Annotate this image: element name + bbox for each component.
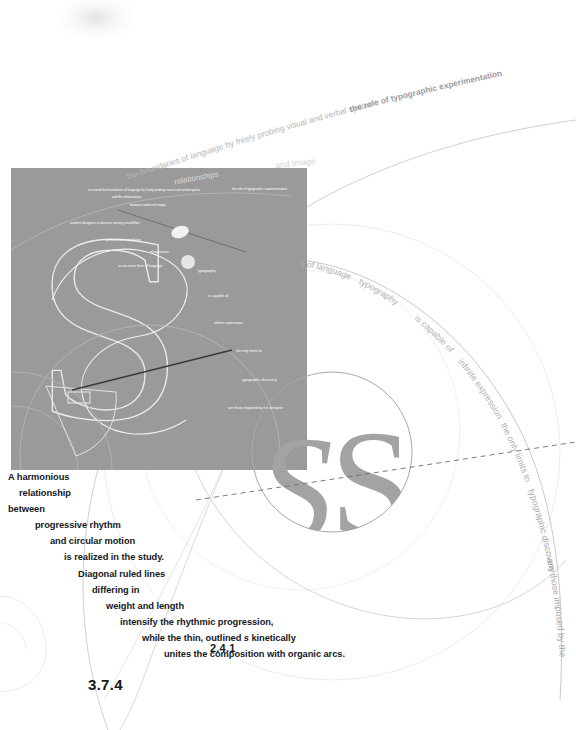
caption-line-9: intensify the rhythmic progression, (8, 614, 438, 630)
caption-line-4: and circular motion (8, 533, 438, 549)
arc-right-text-3: infinite expression (456, 357, 505, 421)
caption-line-7: differing in (8, 582, 438, 598)
arc-right-text-0: s of language (300, 258, 353, 282)
caption-line-8: weight and length (8, 598, 438, 614)
caption-line-2: between (8, 501, 438, 517)
arc-right-text-1: typography (357, 276, 401, 307)
caption-line-0: A harmonious (8, 469, 438, 485)
arc-outer-text-2: the role of typographic experimentation (348, 68, 503, 114)
figure-number: 2.4.1 (210, 642, 235, 654)
arc-secondary-text-2: and image (275, 156, 316, 170)
poster-canvas: S to extend the boundaries of language b… (0, 0, 576, 730)
caption-line-5: is realized in the study. (8, 549, 438, 565)
caption-line-3: progressive rhythm (8, 517, 438, 533)
caption-line-1: relationship (8, 485, 438, 501)
arc-secondary-text-1: relationships (173, 170, 219, 187)
caption-line-10-post: kinetically (249, 633, 296, 643)
caption-block: A harmonious relationship between progre… (8, 469, 438, 662)
page-folio: 3.7.4 (88, 676, 123, 693)
caption-line-6: Diagonal ruled lines (8, 566, 438, 582)
arc-outer-text-1: the boundaries of language by freely pro… (125, 98, 374, 181)
arc-right-text-4: the only limits to (499, 421, 534, 483)
arc-right-text-2: is capable of (413, 313, 456, 355)
